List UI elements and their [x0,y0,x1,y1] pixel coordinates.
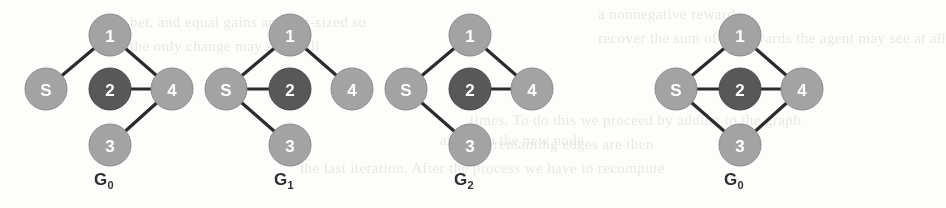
node-label: S [220,81,231,100]
graph-node-3: 3 [269,124,311,166]
graph-node-4: 4 [781,68,823,110]
graph-node-1: 1 [449,14,491,56]
node-label: 3 [285,137,294,156]
graph-graph-g0-left: 1S243 [25,14,193,166]
graph-node-4: 4 [331,68,373,110]
node-label: 2 [735,81,744,100]
caption-base: G [274,170,287,189]
graph-caption-graph-g2: G2 [454,170,474,191]
graph-node-3: 3 [719,124,761,166]
graph-node-3: 3 [89,124,131,166]
graph-node-2: 2 [719,68,761,110]
graph-node-1: 1 [89,14,131,56]
graph-graph-g0-right: 1S243 [655,14,823,166]
node-label: 3 [735,137,744,156]
graph-node-3: 3 [449,124,491,166]
node-label: 1 [285,27,294,46]
graph-node-2: 2 [89,68,131,110]
caption-base: G [724,170,737,189]
node-label: 3 [465,137,474,156]
node-label: S [400,81,411,100]
graph-caption-graph-g0-right: G0 [724,170,744,191]
graph-graph-g2: 1S243 [385,14,553,166]
node-label: 1 [735,27,744,46]
caption-subscript: 2 [468,179,474,191]
graph-node-S: S [205,68,247,110]
node-label: 4 [527,81,537,100]
graph-graph-g1: 1S243 [205,14,373,166]
graph-node-S: S [655,68,697,110]
node-label: 4 [167,81,177,100]
node-label: S [670,81,681,100]
graph-caption-graph-g0-left: G0 [94,170,114,191]
graph-node-2: 2 [449,68,491,110]
node-label: 4 [797,81,807,100]
node-label: 2 [465,81,474,100]
graph-node-4: 4 [511,68,553,110]
node-label: 3 [105,137,114,156]
caption-subscript: 0 [108,179,114,191]
caption-base: G [454,170,467,189]
graph-node-4: 4 [151,68,193,110]
caption-subscript: 1 [288,179,294,191]
graph-node-2: 2 [269,68,311,110]
node-label: 2 [285,81,294,100]
node-label: S [40,81,51,100]
graph-node-1: 1 [719,14,761,56]
graph-node-S: S [385,68,427,110]
graph-caption-graph-g1: G1 [274,170,294,191]
node-label: 1 [465,27,474,46]
graph-node-S: S [25,68,67,110]
caption-subscript: 0 [738,179,744,191]
node-label: 1 [105,27,114,46]
node-label: 2 [105,81,114,100]
graph-node-1: 1 [269,14,311,56]
node-label: 4 [347,81,357,100]
caption-base: G [94,170,107,189]
